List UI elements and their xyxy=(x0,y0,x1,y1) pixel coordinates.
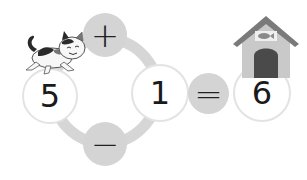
minus-operator-button[interactable]: − xyxy=(83,122,127,166)
minus-label: − xyxy=(91,124,120,164)
equals-label: = xyxy=(194,74,223,114)
operand-b-circle: 1 xyxy=(131,64,189,122)
equals-sign: = xyxy=(188,73,229,114)
plus-label: + xyxy=(91,15,120,55)
doghouse-icon xyxy=(230,12,302,78)
result-value: 6 xyxy=(252,74,272,112)
operand-a-value: 5 xyxy=(40,77,60,115)
operand-b-value: 1 xyxy=(150,74,170,112)
cat-icon xyxy=(20,28,90,78)
math-equation-puzzle: + − 5 1 = 6 xyxy=(0,0,307,180)
